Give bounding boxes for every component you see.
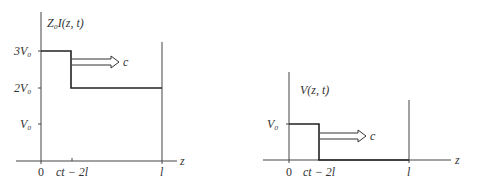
left-ytick-2v0: 2V₀ [14,82,32,94]
right-xtick-0: 0 [286,166,292,178]
right-arrow-icon [320,130,366,142]
left-ytick-v0: V₀ [20,118,32,130]
left-plot [16,12,177,164]
left-arrow-icon [72,56,119,68]
left-xtick-ct-2l: ct − 2l [56,166,88,178]
left-x-axis-label: z [180,155,185,167]
left-xtick-l: l [160,166,163,178]
right-arrow-label: c [370,130,375,142]
left-y-axis-label: Z₀I(z, t) [47,17,84,29]
right-voltage-curve [289,124,409,160]
left-current-curve [41,51,162,88]
right-ytick-v0: V₀ [267,118,279,130]
right-plot [263,72,451,163]
right-xtick-ct-2l: ct − 2l [303,166,335,178]
right-y-axis-label: V(z, t) [300,84,329,96]
left-xtick-0: 0 [38,166,44,178]
left-arrow-label: c [123,56,128,68]
right-xtick-l: l [407,166,410,178]
right-x-axis-label: z [455,154,460,166]
left-ytick-3v0: 3V₀ [14,45,32,57]
